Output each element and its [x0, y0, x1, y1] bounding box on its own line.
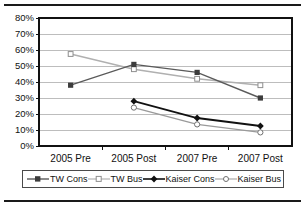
svg-text:10%: 10% — [15, 124, 35, 135]
legend-label-kaiser-cons: Kaiser Cons — [166, 174, 215, 184]
svg-text:2007 Pre: 2007 Pre — [177, 153, 218, 164]
legend-item-kaiser-bus[interactable]: Kaiser Bus — [215, 174, 282, 184]
svg-text:70%: 70% — [15, 28, 35, 39]
x-axis-labels: 2005 Pre2005 Post2007 Pre2007 Post — [50, 153, 283, 164]
legend-swatch-tw-cons — [27, 174, 49, 184]
legend-swatch-kaiser-cons — [143, 174, 165, 184]
svg-text:60%: 60% — [15, 44, 35, 55]
svg-text:2005 Post: 2005 Post — [111, 153, 156, 164]
y-axis-labels: 0%10%20%30%40%50%60%70%80% — [15, 12, 35, 151]
bottom-divider-rule — [4, 200, 301, 202]
legend-label-kaiser-bus: Kaiser Bus — [238, 174, 282, 184]
legend-label-tw-bus: TW Bus — [111, 174, 143, 184]
legend-item-kaiser-cons[interactable]: Kaiser Cons — [143, 174, 215, 184]
svg-text:2007 Post: 2007 Post — [238, 153, 283, 164]
svg-text:40%: 40% — [15, 76, 35, 87]
legend-item-tw-bus[interactable]: TW Bus — [88, 174, 143, 184]
chart-svg: 0%10%20%30%40%50%60%70%80% 2005 Pre2005 … — [0, 9, 305, 169]
svg-text:2005 Pre: 2005 Pre — [50, 153, 91, 164]
svg-text:50%: 50% — [15, 60, 35, 71]
svg-text:20%: 20% — [15, 108, 35, 119]
chart-title-clipped — [0, 0, 305, 5]
svg-text:0%: 0% — [20, 140, 34, 151]
chart-legend: TW Cons TW Bus Kaiser Cons Kaiser Bus — [22, 170, 284, 188]
svg-text:80%: 80% — [15, 12, 35, 23]
line-chart: 0%10%20%30%40%50%60%70%80% 2005 Pre2005 … — [0, 9, 305, 169]
chart-page: 0%10%20%30%40%50%60%70%80% 2005 Pre2005 … — [0, 0, 305, 207]
series-layer — [68, 52, 264, 135]
legend-item-tw-cons[interactable]: TW Cons — [27, 174, 88, 184]
legend-swatch-tw-bus — [88, 174, 110, 184]
svg-text:30%: 30% — [15, 92, 35, 103]
legend-label-tw-cons: TW Cons — [50, 174, 88, 184]
legend-swatch-kaiser-bus — [215, 174, 237, 184]
